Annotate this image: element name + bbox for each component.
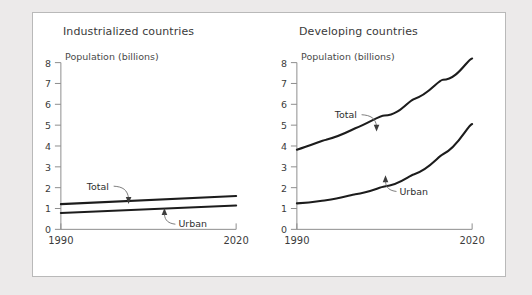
y-tick-label-5: 5 <box>45 120 51 131</box>
y-tick-label-4: 4 <box>281 141 287 152</box>
x-tick-label-start: 1990 <box>284 235 309 246</box>
series-line-urban <box>61 206 236 214</box>
panel-industrialized: Industrialized countries Population (bil… <box>33 13 269 276</box>
x-tick-label-end: 2020 <box>459 235 484 246</box>
y-tick-label-2: 2 <box>281 183 287 194</box>
figure-page: Industrialized countries Population (bil… <box>0 0 532 295</box>
y-tick-label-5: 5 <box>281 120 287 131</box>
y-tick-label-2: 2 <box>45 183 51 194</box>
annotation-total-label: Total <box>334 109 357 120</box>
y-tick-label-0: 0 <box>281 224 287 235</box>
y-tick-label-0: 0 <box>45 224 51 235</box>
y-tick-label-7: 7 <box>281 78 287 89</box>
plot-developing: 8 7 6 5 4 3 2 1 0 1990 2020 Total <box>269 13 505 276</box>
x-tick-label-end: 2020 <box>223 235 248 246</box>
y-tick-label-8: 8 <box>45 58 51 69</box>
y-tick-group <box>291 63 297 230</box>
series-line-total <box>297 58 472 149</box>
y-tick-label-3: 3 <box>281 162 287 173</box>
annotation-urban: Urban <box>162 208 207 229</box>
y-tick-label-1: 1 <box>281 203 287 214</box>
y-tick-label-6: 6 <box>281 99 287 110</box>
x-tick-label-start: 1990 <box>48 235 73 246</box>
y-tick-label-3: 3 <box>45 162 51 173</box>
plot-industrialized: 8 7 6 5 4 3 2 1 0 1990 2020 <box>33 13 269 276</box>
y-tick-label-4: 4 <box>45 141 51 152</box>
annotation-urban-label: Urban <box>399 186 428 197</box>
series-line-urban <box>297 124 472 203</box>
series-line-total <box>61 196 236 204</box>
y-tick-label-7: 7 <box>45 78 51 89</box>
panel-developing: Developing countries Population (billion… <box>269 13 505 276</box>
annotation-total-label: Total <box>86 181 109 192</box>
y-tick-label-1: 1 <box>45 203 51 214</box>
annotation-urban-label: Urban <box>178 218 207 229</box>
y-tick-label-6: 6 <box>45 99 51 110</box>
figure-frame: Industrialized countries Population (bil… <box>32 12 506 277</box>
y-tick-label-8: 8 <box>281 58 287 69</box>
